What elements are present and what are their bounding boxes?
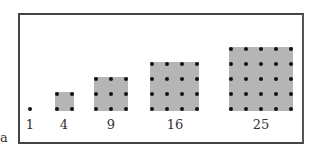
dot	[259, 107, 263, 111]
dot	[274, 92, 278, 96]
dot	[165, 77, 169, 81]
stray-label: a	[0, 130, 8, 145]
square-number-label: 9	[107, 117, 115, 132]
dot	[229, 77, 233, 81]
dot	[28, 107, 32, 111]
dot	[124, 92, 128, 96]
dot	[259, 62, 263, 66]
square-number-label: 25	[253, 117, 270, 132]
dot	[289, 107, 293, 111]
dot	[274, 107, 278, 111]
dot	[229, 92, 233, 96]
square-number-label: 1	[26, 117, 34, 132]
dot	[180, 77, 184, 81]
dot	[94, 77, 98, 81]
dot	[94, 92, 98, 96]
dot	[229, 62, 233, 66]
dot	[195, 62, 199, 66]
dot	[289, 92, 293, 96]
dot	[109, 77, 113, 81]
dot	[244, 47, 248, 51]
dot	[195, 92, 199, 96]
dot	[150, 77, 154, 81]
dot	[150, 107, 154, 111]
dot	[229, 47, 233, 51]
dot	[274, 47, 278, 51]
dot	[289, 77, 293, 81]
square-number-label: 4	[60, 117, 68, 132]
dot	[70, 92, 74, 96]
dot	[124, 107, 128, 111]
dot	[274, 62, 278, 66]
dot	[124, 77, 128, 81]
dot	[259, 47, 263, 51]
dot	[289, 62, 293, 66]
dot	[109, 92, 113, 96]
dot	[229, 107, 233, 111]
dot	[244, 107, 248, 111]
dot	[195, 77, 199, 81]
square-number-label: 16	[167, 117, 184, 132]
dot	[180, 92, 184, 96]
dot	[150, 92, 154, 96]
dot	[244, 77, 248, 81]
dot	[70, 107, 74, 111]
dot	[150, 62, 154, 66]
dot	[259, 92, 263, 96]
dot	[55, 107, 59, 111]
dot	[109, 107, 113, 111]
dot	[165, 107, 169, 111]
dot	[165, 92, 169, 96]
dot	[180, 62, 184, 66]
dot	[55, 92, 59, 96]
dot	[180, 107, 184, 111]
dot	[165, 62, 169, 66]
dot	[244, 92, 248, 96]
dot	[289, 47, 293, 51]
dot	[274, 77, 278, 81]
dot	[94, 107, 98, 111]
square-array-16	[150, 62, 199, 111]
dot	[195, 107, 199, 111]
dot	[259, 77, 263, 81]
dot	[244, 62, 248, 66]
